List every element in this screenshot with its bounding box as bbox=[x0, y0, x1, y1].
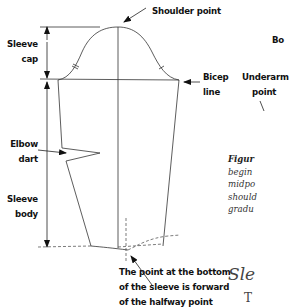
label-shoulder-point: Shoulder point bbox=[152, 5, 221, 17]
body-text: T bbox=[244, 291, 252, 305]
sleeve-right-seam bbox=[163, 80, 179, 246]
caption-line5: gradu bbox=[228, 203, 257, 216]
section-heading: Sle bbox=[228, 264, 255, 284]
figure-caption: Figur begin midpo should gradu bbox=[228, 153, 257, 216]
label-second-figure-top: Bo bbox=[272, 34, 284, 46]
label-elbow-dart-line2: dart bbox=[4, 153, 38, 165]
label-underarm-point-line2: point bbox=[252, 86, 276, 98]
caption-line3: midpo bbox=[228, 178, 257, 191]
label-bottom-note-line2: of the sleeve is forward bbox=[119, 281, 229, 293]
label-bottom-note-line3: of the halfway point bbox=[119, 296, 213, 308]
label-sleeve-body-line1: Sleeve bbox=[4, 193, 38, 205]
label-sleeve-cap-line2: cap bbox=[4, 53, 38, 65]
caption-line1: Figur bbox=[228, 154, 254, 164]
sleeve-cap-curve bbox=[58, 27, 179, 80]
label-bicep-line1: Bicep bbox=[203, 71, 229, 83]
label-sleeve-cap-line1: Sleeve bbox=[4, 38, 38, 50]
caption-line4: should bbox=[228, 191, 257, 204]
label-sleeve-body-line2: body bbox=[4, 208, 38, 220]
label-elbow-dart-line1: Elbow bbox=[4, 138, 38, 150]
label-bottom-note-line1: The point at the bottom bbox=[119, 266, 231, 278]
label-bicep-line2: line bbox=[203, 86, 220, 98]
caption-line2: begin bbox=[228, 166, 257, 179]
sleeve-hem bbox=[91, 246, 128, 250]
label-underarm-point-line1: Underarm bbox=[242, 71, 289, 83]
sleeve-left-seam bbox=[58, 80, 100, 246]
